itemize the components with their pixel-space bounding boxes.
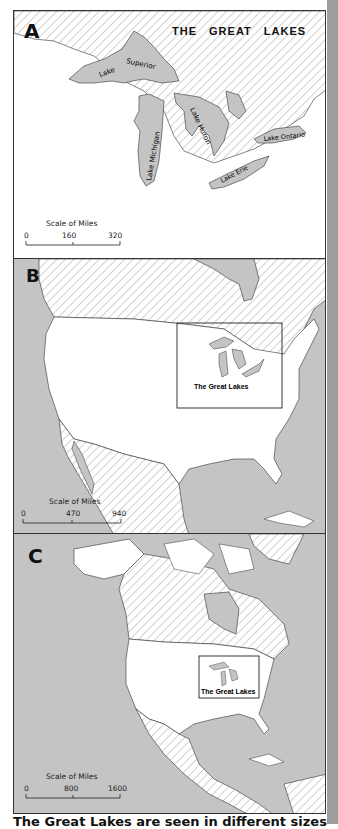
inset-label: The Great Lakes [194, 383, 249, 390]
inset-label: The Great Lakes [201, 688, 256, 695]
united-states-map: The Great Lakes [14, 259, 326, 534]
panel-letter-a: A [24, 19, 39, 43]
scale-bar-a: Scale of Miles 0 160 320 [24, 219, 144, 259]
map-panel-b: The Great Lakes B Scale of Miles 0 470 9… [13, 258, 326, 534]
map-title: THE GREAT LAKES [172, 25, 306, 37]
page-edge-strip [327, 0, 338, 824]
map-panel-c: The Great Lakes C Scale of Miles 0 800 1… [13, 533, 326, 814]
panel-letter-b: B [26, 265, 40, 286]
scale-bar-b: Scale of Miles 0 470 940 [19, 497, 139, 534]
map-panel-a: Lake Superior Lake Michigan Lake Huron L… [13, 10, 326, 259]
figure-caption: The Great Lakes are seen in different si… [13, 814, 327, 829]
scale-bar-c: Scale of Miles 0 800 1600 [24, 772, 144, 812]
panel-letter-c: C [28, 544, 43, 568]
